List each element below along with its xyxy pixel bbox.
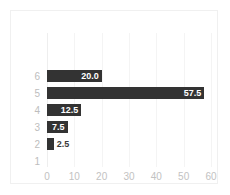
x-tick-label: 0 [44, 171, 50, 182]
x-axis: 0102030405060 [47, 171, 211, 185]
bar-fill: 20.0 [47, 70, 102, 82]
bar-fill: 12.5 [47, 104, 81, 116]
bar: 7.5 [47, 121, 68, 133]
bar: 20.0 [47, 70, 102, 82]
bar-value-label: 57.5 [184, 87, 202, 99]
bar-value-label: 2.5 [57, 138, 70, 150]
x-tick-label: 30 [123, 171, 134, 182]
x-tick-label: 10 [69, 171, 80, 182]
bar: 57.5 [47, 87, 204, 99]
bar-row: 1 [47, 153, 211, 170]
category-label: 6 [34, 68, 40, 85]
x-tick-label: 60 [205, 171, 216, 182]
category-label: 4 [34, 102, 40, 119]
bar-row: 620.0 [47, 68, 211, 85]
bar-rows: 620.0557.5412.537.522.51 [47, 68, 211, 170]
bar-row: 412.5 [47, 102, 211, 119]
bar-fill: 2.5 [47, 138, 54, 150]
chart-frame: 620.0557.5412.537.522.51 0102030405060 [10, 10, 218, 184]
bar: 2.5 [47, 138, 54, 150]
bar-value-label: 20.0 [81, 70, 99, 82]
bar-row: 22.5 [47, 136, 211, 153]
bar-value-label: 7.5 [52, 121, 65, 133]
bar: 12.5 [47, 104, 81, 116]
x-tick-label: 40 [151, 171, 162, 182]
x-tick-label: 20 [96, 171, 107, 182]
bar-row: 37.5 [47, 119, 211, 136]
bar-row: 557.5 [47, 85, 211, 102]
bar-fill: 7.5 [47, 121, 68, 133]
bar-value-label: 12.5 [61, 104, 79, 116]
category-label: 1 [34, 153, 40, 170]
category-label: 3 [34, 119, 40, 136]
category-label: 2 [34, 136, 40, 153]
gridline-60 [211, 33, 212, 167]
bar-fill: 57.5 [47, 87, 204, 99]
category-label: 5 [34, 85, 40, 102]
x-tick-label: 50 [178, 171, 189, 182]
